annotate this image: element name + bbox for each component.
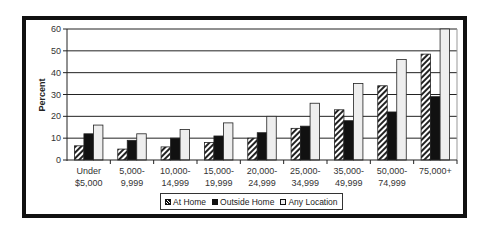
bar-at-home (204, 143, 214, 160)
x-tick-label: 49,999 (335, 178, 363, 188)
x-tick-label: Under (76, 166, 101, 176)
x-tick-label: 5,000- (119, 166, 145, 176)
y-tick-label: 10 (51, 133, 61, 143)
bar-outside-home (171, 138, 181, 160)
bar-outside-home (431, 97, 441, 160)
bar-any-location (310, 103, 320, 160)
x-tick-label: 25,000- (290, 166, 321, 176)
x-tick-label: $5,000 (75, 178, 103, 188)
bar-outside-home (214, 136, 224, 160)
x-tick-label: 15,000- (203, 166, 234, 176)
x-tick-label: 9,999 (121, 178, 144, 188)
bar-outside-home (344, 121, 354, 160)
legend-item-outside-home: Outside Home (212, 197, 274, 207)
bar-at-home (161, 147, 171, 160)
bar-any-location (267, 116, 277, 160)
bar-outside-home (84, 134, 94, 160)
legend-item-any-location: Any Location (280, 197, 337, 207)
legend-item-at-home: At Home (165, 197, 206, 207)
bar-outside-home (387, 112, 397, 160)
hatch-swatch-icon (165, 199, 171, 205)
bar-at-home (74, 146, 84, 160)
bar-at-home (248, 138, 258, 160)
x-tick-label: 10,000- (160, 166, 191, 176)
y-tick-label: 20 (51, 111, 61, 121)
x-tick-label: 74,999 (378, 178, 406, 188)
y-tick-label: 30 (51, 90, 61, 100)
x-tick-label: 19,999 (205, 178, 233, 188)
y-tick-label: 60 (51, 24, 61, 34)
x-tick-label: 20,000- (247, 166, 278, 176)
x-tick-label: 35,000- (333, 166, 364, 176)
bar-any-location (397, 60, 407, 160)
bar-at-home (334, 110, 344, 160)
legend: At Home Outside Home Any Location (160, 193, 343, 210)
bar-at-home (378, 86, 388, 160)
bar-outside-home (257, 133, 267, 160)
y-axis-label: Percent (37, 78, 47, 111)
y-tick-label: 50 (51, 46, 61, 56)
x-tick-label: 50,000- (377, 166, 408, 176)
bar-any-location (137, 134, 147, 160)
axes: 0102030405060Under$5,0005,000-9,99910,00… (51, 24, 457, 188)
bar-any-location (223, 123, 233, 160)
black-swatch-icon (212, 199, 218, 205)
bar-any-location (180, 129, 190, 160)
x-tick-label: 75,000+ (419, 166, 452, 176)
x-tick-label: 14,999 (162, 178, 190, 188)
bar-outside-home (301, 126, 311, 160)
bar-any-location (440, 29, 450, 160)
y-tick-label: 0 (56, 155, 61, 165)
bar-any-location (353, 84, 363, 160)
bar-at-home (421, 54, 431, 160)
y-tick-label: 40 (51, 68, 61, 78)
bar-outside-home (127, 140, 137, 160)
x-tick-label: 34,999 (292, 178, 320, 188)
bar-any-location (93, 125, 103, 160)
bar-at-home (118, 149, 128, 160)
bar-at-home (291, 128, 301, 160)
light-swatch-icon (280, 199, 286, 205)
x-tick-label: 24,999 (248, 178, 276, 188)
